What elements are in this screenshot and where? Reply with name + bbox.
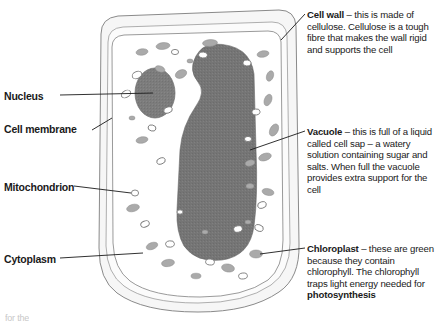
plant-cell-diagram: Nucleus Cell membrane Mitochondrion Cyto… [0,0,438,322]
note-vacuole-term: Vacuole [307,126,342,137]
note-cell-wall-term: Cell wall [307,9,344,20]
label-nucleus: Nucleus [4,91,43,102]
label-mitochondrion: Mitochondrion [4,182,74,193]
label-cell-membrane: Cell membrane [4,124,77,135]
mitochondrion-labelled [131,190,138,196]
note-chloroplast-term: Chloroplast [307,243,359,254]
cropped-bottom-text: for the [5,313,29,322]
label-cytoplasm: Cytoplasm [4,254,56,265]
note-chloroplast-emphasis: photosynthesis [307,289,376,300]
note-cell-wall: Cell wall – this is made of cellulose. C… [307,9,435,55]
note-chloroplast: Chloroplast – these are green because th… [307,243,435,301]
note-vacuole: Vacuole – this is full of a liquid calle… [307,126,435,196]
